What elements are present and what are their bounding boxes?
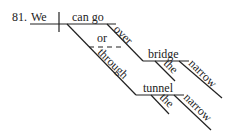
sentence-diagram: 81. We can go or over through bridge the… — [0, 0, 233, 134]
conjunction-word: or — [97, 31, 107, 45]
subject-word: We — [31, 10, 47, 24]
diagram-number: 81. — [12, 10, 27, 24]
predicate-word: can go — [72, 10, 104, 24]
preposition-over: over — [111, 22, 136, 47]
preposition-through: through — [95, 45, 131, 81]
bridge-adjective: narrow — [186, 56, 220, 90]
tunnel-adjective: narrow — [181, 90, 215, 124]
